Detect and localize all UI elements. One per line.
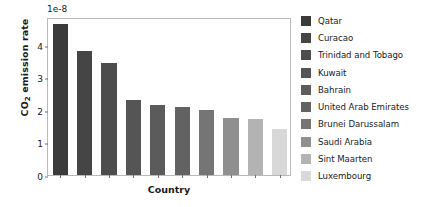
legend-label: Curacao: [318, 33, 353, 43]
x-tick-mark: [231, 175, 232, 178]
bar: [126, 100, 141, 175]
chart-figure: CO2 emission rate 1e-8 01234 Country Qat…: [0, 0, 429, 207]
legend-swatch-icon: [301, 154, 311, 164]
y-tick-mark: [45, 79, 48, 80]
legend-label: Brunei Darussalam: [318, 119, 399, 129]
y-axis-label: CO2 emission rate: [19, 0, 30, 138]
x-tick-mark: [158, 175, 159, 178]
bar: [53, 24, 68, 175]
y-axis-label-rest: emission rate: [19, 19, 30, 97]
legend-item: Sint Maarten: [301, 150, 429, 167]
bar: [175, 107, 190, 175]
x-tick-mark: [60, 175, 61, 178]
legend-label: Sint Maarten: [318, 154, 372, 164]
x-tick-mark: [133, 175, 134, 178]
x-tick-mark: [85, 175, 86, 178]
legend-swatch-icon: [301, 50, 311, 60]
chart-legend: QatarCuracaoTrinidad and TobagoKuwaitBah…: [301, 12, 429, 185]
plot-area: 01234: [47, 18, 291, 176]
legend-label: Luxembourg: [318, 171, 371, 181]
legend-swatch-icon: [301, 137, 311, 147]
legend-item: Curacao: [301, 29, 429, 46]
legend-label: Bahrain: [318, 85, 351, 95]
legend-swatch-icon: [301, 16, 311, 26]
x-tick-mark: [109, 175, 110, 178]
x-tick-mark: [207, 175, 208, 178]
legend-item: United Arab Emirates: [301, 98, 429, 115]
y-tick-mark: [45, 46, 48, 47]
legend-item: Kuwait: [301, 64, 429, 81]
y-tick-mark: [45, 111, 48, 112]
bar: [150, 105, 165, 175]
x-tick-mark: [255, 175, 256, 178]
bar: [199, 110, 214, 175]
legend-label: Qatar: [318, 16, 342, 26]
bar: [77, 51, 92, 175]
legend-swatch-icon: [301, 171, 311, 181]
legend-label: Trinidad and Tobago: [318, 50, 403, 60]
bar-series: [48, 19, 290, 175]
legend-swatch-icon: [301, 119, 311, 129]
bar: [223, 118, 238, 175]
legend-item: Trinidad and Tobago: [301, 47, 429, 64]
x-axis-label: Country: [47, 184, 291, 195]
legend-label: Saudi Arabia: [318, 137, 372, 147]
y-tick-mark: [45, 144, 48, 145]
bar: [272, 129, 287, 175]
legend-swatch-icon: [301, 102, 311, 112]
bar: [248, 119, 263, 175]
x-tick-mark: [182, 175, 183, 178]
legend-item: Bahrain: [301, 81, 429, 98]
legend-swatch-icon: [301, 85, 311, 95]
y-axis-label-main: CO: [19, 101, 30, 116]
x-tick-mark: [280, 175, 281, 178]
legend-item: Brunei Darussalam: [301, 116, 429, 133]
y-axis-label-subscript: 2: [24, 96, 32, 101]
legend-item: Saudi Arabia: [301, 133, 429, 150]
y-tick-mark: [45, 177, 48, 178]
legend-label: Kuwait: [318, 68, 346, 78]
y-axis-offset-text: 1e-8: [47, 4, 67, 14]
legend-swatch-icon: [301, 68, 311, 78]
legend-item: Qatar: [301, 12, 429, 29]
bar: [101, 63, 116, 175]
legend-item: Luxembourg: [301, 168, 429, 185]
legend-label: United Arab Emirates: [318, 102, 409, 112]
legend-swatch-icon: [301, 33, 311, 43]
